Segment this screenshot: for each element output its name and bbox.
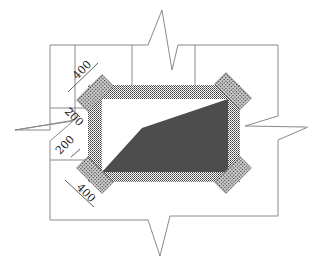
dim-label-200-top: 200 (62, 105, 86, 129)
filled-region (102, 99, 228, 172)
dim-label-400-top: 400 (70, 58, 94, 82)
dim-label-200-bottom: 200 (53, 133, 77, 157)
diagram-canvas: 400 200 200 400 (0, 0, 319, 258)
dim-line-200-bottom (71, 149, 80, 157)
